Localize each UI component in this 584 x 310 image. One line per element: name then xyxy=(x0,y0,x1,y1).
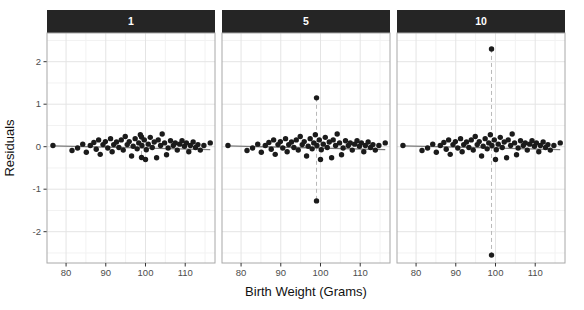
x-tick-label: 90 xyxy=(100,267,111,278)
data-point xyxy=(376,143,381,148)
data-point xyxy=(175,147,180,152)
data-point xyxy=(150,145,155,150)
data-point xyxy=(493,157,498,162)
y-axis-title: Residuals xyxy=(2,119,17,176)
data-point xyxy=(318,157,323,162)
x-tick-label: 80 xyxy=(61,267,72,278)
data-point xyxy=(446,137,451,142)
data-point xyxy=(488,132,493,137)
data-point xyxy=(139,143,144,148)
data-point xyxy=(123,134,128,139)
outlier-point xyxy=(314,198,319,203)
data-point xyxy=(91,140,96,145)
data-point xyxy=(198,147,203,152)
plot-canvas: 210-1-2180901001105809010011010809010011… xyxy=(0,0,584,310)
data-point xyxy=(225,143,230,148)
data-point xyxy=(154,155,159,160)
x-tick-label: 80 xyxy=(411,267,422,278)
data-point xyxy=(195,142,200,147)
data-point xyxy=(545,142,550,147)
data-point xyxy=(132,136,137,141)
data-point xyxy=(494,147,499,152)
data-point xyxy=(148,135,153,140)
data-point xyxy=(514,152,519,157)
data-point xyxy=(278,139,283,144)
data-point xyxy=(289,139,294,144)
data-point xyxy=(250,145,255,150)
facet-panel-10: 108090100110 xyxy=(397,10,565,278)
data-point xyxy=(400,143,405,148)
data-point xyxy=(430,141,435,146)
data-point xyxy=(365,139,370,144)
data-point xyxy=(441,140,446,145)
data-point xyxy=(108,136,113,141)
data-point xyxy=(114,139,119,144)
facet-strip-label: 1 xyxy=(128,15,134,27)
data-point xyxy=(551,143,556,148)
data-point xyxy=(129,153,134,158)
data-point xyxy=(314,143,319,148)
data-point xyxy=(159,131,164,136)
x-tick-label: 90 xyxy=(450,267,461,278)
data-point xyxy=(144,147,149,152)
data-point xyxy=(337,140,342,145)
data-point xyxy=(313,132,318,137)
x-tick-label: 110 xyxy=(528,267,543,278)
data-point xyxy=(548,147,553,152)
y-tick-label: -1 xyxy=(33,183,41,194)
data-point xyxy=(419,148,424,153)
x-tick-label: 100 xyxy=(138,267,154,278)
data-point xyxy=(540,139,545,144)
data-point xyxy=(127,139,132,144)
data-point xyxy=(458,136,463,141)
data-point xyxy=(190,139,195,144)
data-point xyxy=(283,136,288,141)
data-point xyxy=(50,143,55,148)
data-point xyxy=(484,146,489,151)
data-point xyxy=(506,137,511,142)
facet-panel-5: 58090100110 xyxy=(222,10,390,278)
data-point xyxy=(259,150,264,155)
data-point xyxy=(370,142,375,147)
data-point xyxy=(280,145,285,150)
data-point xyxy=(512,140,517,145)
data-point xyxy=(525,147,530,152)
facet-strip-label: 10 xyxy=(475,15,487,27)
data-point xyxy=(489,143,494,148)
x-tick-label: 110 xyxy=(353,267,368,278)
data-point xyxy=(518,138,523,143)
data-point xyxy=(473,134,478,139)
data-point xyxy=(453,139,458,144)
x-axis-title: Birth Weight (Grams) xyxy=(47,284,565,299)
data-point xyxy=(162,140,167,145)
data-point xyxy=(317,137,322,142)
data-point xyxy=(448,152,453,157)
outlier-point xyxy=(139,134,144,139)
data-point xyxy=(121,147,126,152)
y-tick-label: 1 xyxy=(36,98,41,109)
data-point xyxy=(325,145,330,150)
data-point xyxy=(509,131,514,136)
data-point xyxy=(482,136,487,141)
data-point xyxy=(383,140,388,145)
data-point xyxy=(103,139,108,144)
x-tick-label: 100 xyxy=(313,267,329,278)
outlier-point xyxy=(489,46,494,51)
data-point xyxy=(284,149,289,154)
y-tick-label: 0 xyxy=(36,141,41,152)
outlier-point xyxy=(314,95,319,100)
data-point xyxy=(361,149,366,154)
data-point xyxy=(500,145,505,150)
data-point xyxy=(425,145,430,150)
data-point xyxy=(444,147,449,152)
data-point xyxy=(504,155,509,160)
data-point xyxy=(255,141,260,146)
data-point xyxy=(434,150,439,155)
data-point xyxy=(269,147,274,152)
x-tick-label: 80 xyxy=(236,267,247,278)
data-point xyxy=(373,147,378,152)
data-point xyxy=(558,140,563,145)
data-point xyxy=(80,141,85,146)
outlier-point xyxy=(489,252,494,257)
data-point xyxy=(96,137,101,142)
